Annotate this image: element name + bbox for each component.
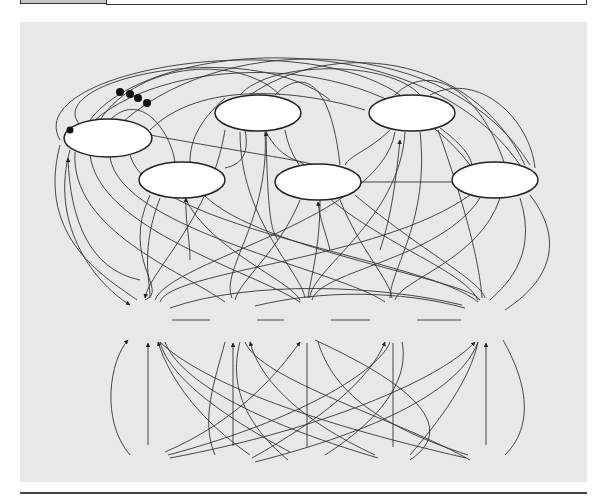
word-node-able[interactable] [64, 119, 152, 157]
letter-letter-connections [170, 288, 465, 320]
network-diagram [0, 0, 608, 503]
word-level [64, 95, 538, 200]
word-node-cart[interactable] [452, 162, 538, 198]
word-node-take[interactable] [275, 164, 361, 200]
word-node-time[interactable] [369, 95, 455, 131]
word-letter-connections [55, 130, 550, 310]
word-node-trip[interactable] [215, 95, 301, 131]
feature-letter-connections [111, 340, 524, 462]
word-node-trap[interactable] [139, 162, 225, 198]
